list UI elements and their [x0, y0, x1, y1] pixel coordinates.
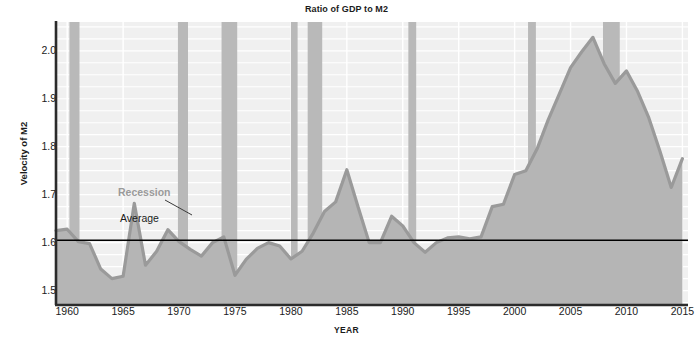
x-tick-label: 1980: [269, 305, 313, 317]
x-tick-label: 1995: [437, 305, 481, 317]
x-tick-label: 1965: [101, 305, 145, 317]
x-tick-label: 2010: [604, 305, 648, 317]
x-tick-label: 1990: [381, 305, 425, 317]
x-tick-label: 1960: [45, 305, 89, 317]
x-tick-label: 2015: [660, 305, 699, 317]
x-tick-label: 2000: [493, 305, 537, 317]
x-tick-label: 2005: [549, 305, 593, 317]
x-axis-title: YEAR: [0, 325, 693, 335]
average-annotation-label: Average: [120, 212, 159, 224]
x-tick-label: 1970: [157, 305, 201, 317]
x-tick-label: 1975: [213, 305, 257, 317]
recession-annotation-label: Recession: [118, 186, 171, 198]
x-tick-label: 1985: [325, 305, 369, 317]
x-axis-tick-labels: 1960196519701975198019851990199520002005…: [0, 305, 693, 321]
